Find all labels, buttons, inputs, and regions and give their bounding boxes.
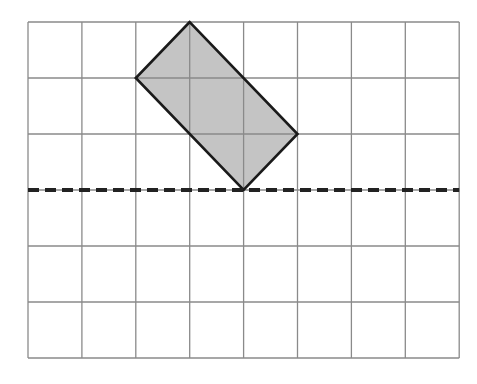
grid-diagram	[0, 0, 477, 384]
rectangle-fill	[136, 22, 298, 190]
